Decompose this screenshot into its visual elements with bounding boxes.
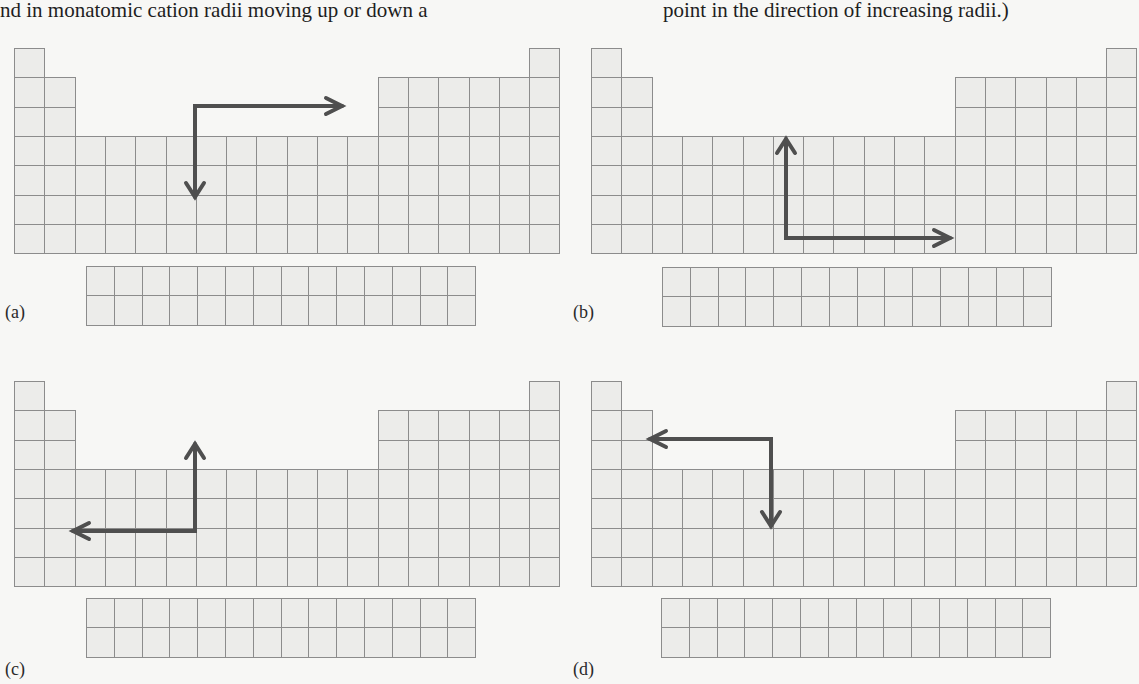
f-block-cell — [392, 266, 421, 296]
element-cell — [317, 528, 348, 558]
f-block-cell — [169, 627, 198, 658]
f-block-cell — [829, 267, 858, 297]
element-cell — [469, 410, 500, 441]
element-cell — [803, 469, 834, 499]
element-cell — [621, 107, 653, 137]
f-block-cell — [717, 627, 745, 658]
element-cell — [408, 557, 439, 587]
element-cell — [469, 224, 500, 254]
element-cell — [773, 165, 804, 196]
element-cell — [378, 469, 409, 499]
element-cell — [226, 469, 257, 499]
element-cell — [256, 557, 288, 587]
panel-label-d: (d) — [573, 659, 594, 679]
element-cell — [256, 136, 288, 166]
f-block-cell — [253, 295, 282, 326]
f-block-cell — [856, 598, 884, 628]
f-block-cell — [883, 627, 912, 658]
f-block-cell — [86, 295, 115, 326]
element-cell — [924, 165, 956, 196]
element-cell — [682, 469, 713, 499]
element-cell — [773, 557, 804, 587]
element-cell — [438, 469, 470, 499]
f-block-cell — [967, 598, 996, 628]
element-cell — [438, 557, 470, 587]
element-cell — [135, 557, 167, 587]
element-cell — [591, 165, 622, 196]
element-cell — [196, 195, 227, 225]
element-cell — [44, 165, 76, 196]
element-cell — [1076, 498, 1107, 529]
element-cell — [75, 136, 106, 166]
element-cell — [75, 469, 106, 499]
f-block-cell — [828, 627, 857, 658]
element-cell — [196, 165, 227, 196]
element-cell — [1076, 195, 1107, 225]
element-cell — [166, 195, 197, 225]
element-cell — [955, 77, 986, 108]
f-block-cell — [447, 598, 476, 628]
element-cell — [1106, 48, 1137, 78]
element-cell — [1076, 107, 1107, 137]
element-cell — [955, 195, 986, 225]
element-cell — [1106, 498, 1137, 529]
element-cell — [469, 440, 500, 470]
element-cell — [44, 498, 76, 529]
element-cell — [955, 440, 986, 470]
element-cell — [499, 195, 530, 225]
element-cell — [135, 224, 167, 254]
element-cell — [438, 528, 470, 558]
f-block-cell — [717, 598, 745, 628]
element-cell — [955, 136, 986, 166]
element-cell — [287, 528, 318, 558]
f-block-cell — [857, 267, 885, 297]
element-cell — [14, 48, 45, 78]
element-cell — [712, 498, 744, 529]
element-cell — [1046, 107, 1077, 137]
element-cell — [712, 224, 744, 254]
element-cell — [833, 136, 865, 166]
f-block-cell — [392, 295, 421, 326]
element-cell — [75, 165, 106, 196]
f-block-cell — [336, 627, 365, 658]
element-cell — [529, 195, 560, 225]
panel-label-b: (b) — [573, 302, 594, 322]
element-cell — [438, 440, 470, 470]
element-cell — [196, 498, 227, 529]
element-cell — [105, 528, 136, 558]
f-block-cell — [364, 295, 393, 326]
f-block-cell — [114, 295, 143, 326]
element-cell — [166, 136, 197, 166]
element-cell — [591, 77, 622, 108]
f-block-cell — [364, 266, 393, 296]
f-block-cell — [718, 267, 746, 297]
element-cell — [1015, 469, 1047, 499]
element-cell — [1076, 410, 1107, 441]
element-cell — [1076, 165, 1107, 196]
f-block-cell — [86, 627, 115, 658]
f-block-cell — [142, 266, 170, 296]
f-block-cell — [447, 627, 476, 658]
element-cell — [135, 195, 167, 225]
element-cell — [773, 195, 804, 225]
f-block-cell — [142, 627, 170, 658]
element-cell — [833, 469, 865, 499]
element-cell — [317, 136, 348, 166]
element-cell — [529, 136, 560, 166]
element-cell — [75, 528, 106, 558]
element-cell — [105, 165, 136, 196]
element-cell — [712, 195, 744, 225]
element-cell — [924, 498, 956, 529]
element-cell — [1076, 557, 1107, 587]
element-cell — [621, 136, 653, 166]
element-cell — [955, 165, 986, 196]
element-cell — [317, 224, 348, 254]
element-cell — [14, 498, 45, 529]
element-cell — [408, 410, 439, 441]
element-cell — [894, 469, 925, 499]
element-cell — [955, 107, 986, 137]
element-cell — [347, 195, 379, 225]
element-cell — [621, 77, 653, 108]
element-cell — [317, 195, 348, 225]
element-cell — [712, 557, 744, 587]
